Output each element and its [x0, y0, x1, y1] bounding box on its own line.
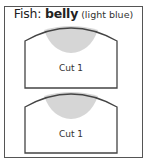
cut-shape-1: Cut 1	[24, 26, 118, 89]
cut-shape-2: Cut 1	[24, 92, 118, 155]
title-bold: belly	[45, 6, 78, 21]
cut-outline-icon	[24, 26, 118, 89]
cut-label: Cut 1	[24, 129, 118, 139]
cut-outline-icon	[24, 92, 118, 155]
title-subtitle: (light blue)	[78, 9, 133, 20]
cut-label: Cut 1	[24, 63, 118, 73]
title-main: Fish: belly	[14, 6, 78, 21]
diagram-title: Fish: belly (light blue)	[0, 6, 147, 22]
title-prefix: Fish:	[14, 6, 45, 21]
